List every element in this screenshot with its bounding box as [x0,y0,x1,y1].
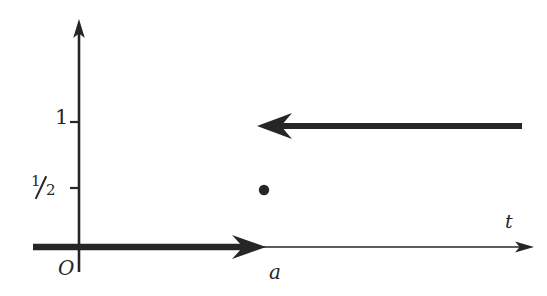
branch-right-one [257,113,522,139]
y-axis-label-one: 1 [55,107,68,128]
t-axis-label: t [505,212,513,231]
y-axis-label-half: 12 [31,174,62,202]
point-marker-a-half [259,185,269,195]
figure-canvas: 1 12 O a t [0,0,547,296]
point-a-label: a [269,262,281,282]
y-axis-group [70,19,85,272]
origin-label: O [58,258,74,278]
x-axis-group [260,242,534,253]
step-function-diagram [0,0,547,296]
half-denominator: 2 [46,183,56,198]
